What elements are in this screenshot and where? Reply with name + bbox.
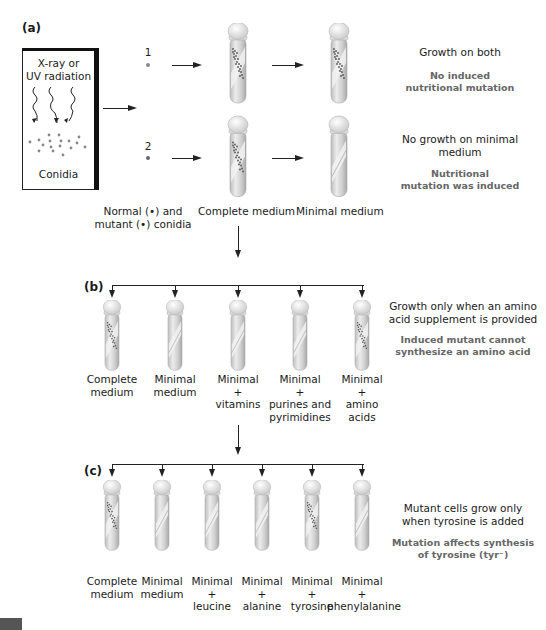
arrow-a2-complete-to-minimal bbox=[272, 158, 296, 159]
tube-c-complete-growth bbox=[101, 480, 123, 552]
radiation-label-line1: X-ray or bbox=[23, 57, 94, 70]
arrowhead-down-icon bbox=[109, 469, 115, 477]
arrowhead-down-icon bbox=[359, 469, 365, 477]
normal-conidium-dot bbox=[146, 63, 150, 67]
tube-c-tyrosine-growth bbox=[301, 480, 323, 552]
radiation-box: X-ray or UV radiation Conidia bbox=[22, 48, 99, 190]
panel-b-outcome-line2: acid supplement is provided bbox=[380, 313, 546, 326]
page-corner-block bbox=[0, 618, 22, 630]
arrowhead-down-icon bbox=[159, 469, 165, 477]
tube-a2-complete-growth bbox=[227, 115, 249, 200]
arrow-sample1-to-complete bbox=[172, 65, 194, 66]
panel-c-conclusion-line2: of tyrosine (tyr⁻) bbox=[380, 549, 546, 561]
column-label-minimal-medium: Minimal medium bbox=[296, 205, 378, 218]
tube-a1-complete-growth bbox=[227, 23, 249, 105]
arrow-sample2-to-complete bbox=[172, 158, 194, 159]
arrowhead-down-icon bbox=[259, 469, 265, 477]
radiation-label-line2: UV radiation bbox=[23, 70, 94, 83]
sample-1-number: 1 bbox=[142, 46, 154, 59]
radiation-rays-and-conidia-icon bbox=[23, 85, 94, 160]
tube-b-minimal-no-growth bbox=[164, 300, 186, 372]
arrow-a-to-b bbox=[238, 226, 239, 252]
result-2-conclusion-line2: mutation was induced bbox=[380, 180, 540, 192]
panel-b-label: (b) bbox=[84, 280, 104, 294]
arrowhead-down-icon bbox=[235, 290, 241, 298]
tube-b-amino-acids-growth bbox=[351, 300, 373, 372]
tube-a1-minimal-growth bbox=[328, 23, 350, 105]
arrowhead-right-icon bbox=[128, 105, 137, 111]
legend-line2: mutant (•) conidia bbox=[88, 218, 198, 231]
result-1-conclusion-line1: No induced bbox=[380, 70, 540, 82]
arrowhead-down-icon bbox=[209, 469, 215, 477]
result-1-conclusion-line2: nutritional mutation bbox=[380, 82, 540, 94]
legend-line1: Normal (•) and bbox=[88, 205, 198, 218]
arrowhead-down-icon bbox=[109, 290, 115, 298]
arrowhead-down-icon bbox=[297, 290, 303, 298]
arrow-box-to-samples bbox=[103, 108, 129, 109]
panel-c-label: (c) bbox=[84, 464, 102, 478]
arrowhead-down-icon bbox=[309, 469, 315, 477]
column-label-complete-medium: Complete medium bbox=[198, 205, 280, 218]
panel-a-label: (a) bbox=[22, 21, 41, 35]
result-1-outcome: Growth on both bbox=[380, 46, 540, 59]
arrowhead-down-icon bbox=[359, 290, 365, 298]
panel-b-conclusion-line1: Induced mutant cannot bbox=[380, 334, 546, 346]
panel-c-branch-line bbox=[112, 464, 364, 465]
panel-c-conclusion-line1: Mutation affects synthesis bbox=[380, 537, 546, 549]
result-2-conclusion-line1: Nutritional bbox=[380, 168, 540, 180]
arrowhead-down-icon bbox=[235, 250, 241, 258]
tube-b-purines-no-growth bbox=[289, 300, 311, 372]
tube-a2-minimal-no-growth bbox=[328, 115, 350, 200]
arrow-b-to-c bbox=[238, 425, 239, 449]
result-2-outcome-line2: medium bbox=[380, 146, 540, 159]
tube-c-minimal-no-growth bbox=[151, 480, 173, 552]
result-2-outcome-line1: No growth on minimal bbox=[380, 133, 540, 146]
arrowhead-down-icon bbox=[235, 447, 241, 455]
arrowhead-right-icon bbox=[295, 62, 304, 68]
panel-b-conclusion-line2: synthesize an amino acid bbox=[380, 346, 546, 358]
arrowhead-right-icon bbox=[193, 155, 202, 161]
panel-c-outcome-line1: Mutant cells grow only bbox=[380, 502, 546, 515]
panel-c-outcome-line2: when tyrosine is added bbox=[380, 515, 546, 528]
arrow-a1-complete-to-minimal bbox=[272, 65, 296, 66]
tube-c-phenylalanine-no-growth bbox=[351, 480, 373, 552]
panel-b-outcome-line1: Growth only when an amino bbox=[380, 300, 546, 313]
conidia-label: Conidia bbox=[23, 168, 94, 181]
arrowhead-right-icon bbox=[193, 62, 202, 68]
sample-2-number: 2 bbox=[142, 140, 154, 153]
tube-c-alanine-no-growth bbox=[251, 480, 273, 552]
tube-b-complete-growth bbox=[101, 300, 123, 372]
tube-c-leucine-no-growth bbox=[201, 480, 223, 552]
arrowhead-right-icon bbox=[295, 155, 304, 161]
tube-b-vitamins-no-growth bbox=[227, 300, 249, 372]
tube-b-label-amino-acids: Minimal + amino acids bbox=[322, 373, 402, 423]
tube-c-label-phenylalanine: Minimal + phenylalanine bbox=[327, 575, 397, 613]
mutant-conidium-dot bbox=[146, 156, 150, 160]
arrowhead-down-icon bbox=[172, 290, 178, 298]
